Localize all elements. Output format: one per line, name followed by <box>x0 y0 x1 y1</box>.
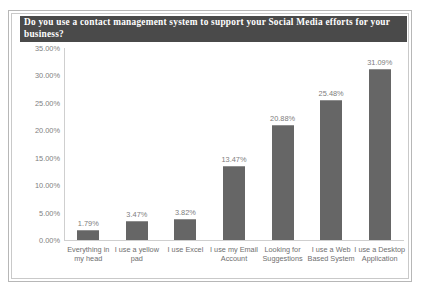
bar-column: 3.47% <box>113 14 161 240</box>
x-axis-category-label: I use a Web Based System <box>305 245 357 263</box>
x-axis-category-label: I use my Email Account <box>208 245 260 263</box>
bar <box>369 69 391 240</box>
bar-column: 3.82% <box>161 14 209 240</box>
bar <box>126 221 148 240</box>
y-axis-tick-label: 15.00% <box>16 153 60 162</box>
y-axis-tick-label: 35.00% <box>16 44 60 53</box>
bar-value-label: 3.47% <box>126 210 147 219</box>
chart-title: Do you use a contact management system t… <box>20 16 407 42</box>
bar-column: 13.47% <box>210 14 258 240</box>
y-axis-tick-labels: 0.00%5.00%10.00%15.00%20.00%25.00%30.00%… <box>16 14 60 286</box>
chart-frame-inner: Do you use a contact management system t… <box>11 13 409 279</box>
y-axis-tick-label: 0.00% <box>16 236 60 245</box>
x-axis-line <box>64 240 404 241</box>
bar <box>174 219 196 240</box>
bar <box>223 166 245 240</box>
y-axis-tick-label: 30.00% <box>16 71 60 80</box>
x-axis-category-label: I use a yellow pad <box>111 245 163 263</box>
bar-value-label: 3.82% <box>175 208 196 217</box>
bar-column: 25.48% <box>307 14 355 240</box>
bar-value-label: 1.79% <box>78 219 99 228</box>
bar <box>77 230 99 240</box>
y-axis-tick-label: 20.00% <box>16 126 60 135</box>
x-axis-category-label: I use a Desktop Application <box>354 245 406 263</box>
plot-area: 0.00%5.00%10.00%15.00%20.00%25.00%30.00%… <box>12 14 416 286</box>
bar-value-label: 25.48% <box>319 89 344 98</box>
x-axis-category-label: I use Excel <box>159 245 211 254</box>
bar-column: 1.79% <box>64 14 112 240</box>
bar-value-label: 20.88% <box>270 114 295 123</box>
chart-frame: Do you use a contact management system t… <box>8 10 412 282</box>
bar-value-label: 31.09% <box>367 58 392 67</box>
y-axis-tick-label: 5.00% <box>16 208 60 217</box>
y-axis-tick-label: 10.00% <box>16 181 60 190</box>
x-axis-category-label: Everything in my head <box>62 245 114 263</box>
y-axis-tick-label: 25.00% <box>16 98 60 107</box>
bar <box>320 100 342 240</box>
bar-column: 31.09% <box>356 14 404 240</box>
bar <box>272 125 294 240</box>
x-axis-category-label: Looking for Suggestions <box>257 245 309 263</box>
bar-value-label: 13.47% <box>221 155 246 164</box>
bar-column: 20.88% <box>259 14 307 240</box>
